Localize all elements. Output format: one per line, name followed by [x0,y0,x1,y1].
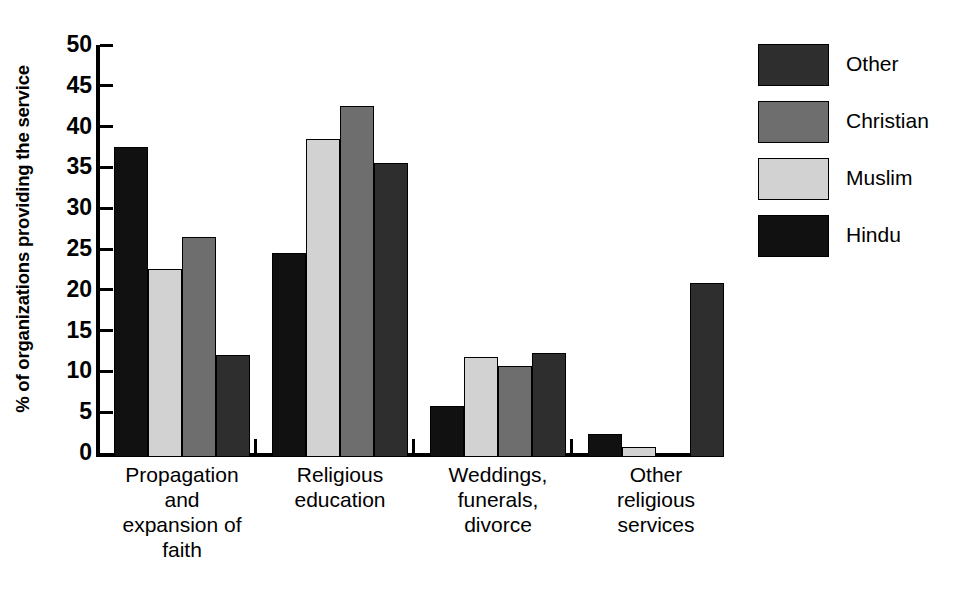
bar [464,357,498,457]
category-label-line: expansion of [92,512,272,537]
legend-item: Other [758,44,964,86]
bar-group [430,49,566,457]
category-label-line: services [566,512,746,537]
category-label: Otherreligiousservices [566,462,746,537]
legend-item: Christian [758,101,964,143]
bar [532,353,566,457]
legend-swatch [758,158,829,200]
y-axis-tick [100,288,113,291]
category-label-line: funerals, [408,487,588,512]
y-axis-title: % of organizations providing the service [12,4,34,474]
y-axis-tick [100,329,113,332]
bar [690,283,724,457]
legend-swatch [758,101,829,143]
legend-swatch [758,44,829,86]
legend-label: Muslim [846,165,913,191]
bar-group [114,49,250,457]
bar-chart: % of organizations providing the service… [0,0,968,591]
x-axis-category-labels: Propagationandexpansion offaithReligious… [96,462,736,582]
y-axis-tick [100,370,113,373]
y-axis-tick [100,207,113,210]
plot-area: 50454035302520151050 [96,45,718,457]
y-axis-tick-label: 0 [48,441,92,464]
y-axis-tick-label: 45 [48,74,92,97]
category-label: Religiouseducation [250,462,430,512]
legend-item: Muslim [758,158,964,200]
bar [622,447,656,457]
y-axis-tick [100,125,113,128]
legend-label: Christian [846,108,929,134]
bar [498,366,532,457]
y-axis-tick [100,84,113,87]
bar [588,434,622,457]
bar [148,269,182,457]
x-axis-separator-tick [254,439,257,453]
legend-label: Other [846,51,899,77]
bar [430,406,464,457]
bar [340,106,374,457]
y-axis-tick-labels: 50454035302520151050 [40,45,92,457]
y-axis-tick [100,248,113,251]
y-axis-tick-label: 5 [48,400,92,423]
legend-swatch [758,215,829,257]
bar-group [272,49,408,457]
y-axis-tick [100,44,113,47]
category-label-line: and [92,487,272,512]
y-axis-tick-label: 15 [48,319,92,342]
bar [182,237,216,457]
category-label-line: divorce [408,512,588,537]
y-axis-tick [100,166,113,169]
bar [374,163,408,457]
bar [306,139,340,457]
legend-label: Hindu [846,222,901,248]
y-axis-tick-label: 50 [48,33,92,56]
bar-group [588,49,724,457]
bar [114,147,148,457]
bar [272,253,306,457]
x-axis-separator-tick [412,439,415,453]
category-label-line: Other [566,462,746,487]
legend-item: Hindu [758,215,964,257]
y-axis-tick-label: 25 [48,237,92,260]
y-axis-tick [100,411,113,414]
x-axis-separator-tick [570,439,573,453]
category-label: Weddings,funerals,divorce [408,462,588,537]
y-axis-tick-label: 30 [48,196,92,219]
bar [216,355,250,457]
category-label: Propagationandexpansion offaith [92,462,272,562]
y-axis-tick-label: 40 [48,115,92,138]
category-label-line: Weddings, [408,462,588,487]
y-axis-tick-label: 10 [48,359,92,382]
y-axis-tick-label: 35 [48,155,92,178]
category-label-line: faith [92,537,272,562]
category-label-line: religious [566,487,746,512]
category-label-line: Propagation [92,462,272,487]
category-label-line: education [250,487,430,512]
y-axis-tick-label: 20 [48,278,92,301]
legend: OtherChristianMuslimHindu [758,44,964,259]
category-label-line: Religious [250,462,430,487]
y-axis-line [96,45,100,457]
